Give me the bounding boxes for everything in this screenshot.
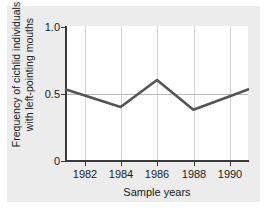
gridline-horizontal-05 bbox=[67, 94, 248, 95]
x-tick-mark-1982 bbox=[85, 162, 86, 166]
x-tick-label-1986: 1986 bbox=[145, 168, 169, 180]
y-tick-mark-0 bbox=[61, 161, 65, 162]
y-tick-label-1: 1.0 bbox=[45, 21, 60, 33]
y-axis-title-line-1: Frequency of cichlid individuals bbox=[10, 0, 23, 150]
y-tick-label-05: 0.5 bbox=[45, 88, 60, 100]
y-tick-mark-1 bbox=[61, 27, 65, 28]
x-tick-label-1988: 1988 bbox=[182, 168, 206, 180]
x-tick-mark-1990 bbox=[230, 162, 231, 166]
x-tick-mark-1984 bbox=[121, 162, 122, 166]
x-tick-mark-1988 bbox=[194, 162, 195, 166]
x-tick-label-1982: 1982 bbox=[73, 168, 97, 180]
y-tick-mark-05 bbox=[61, 94, 65, 95]
x-tick-label-1984: 1984 bbox=[109, 168, 133, 180]
y-axis-title-line-2: with left-pointing mouths bbox=[22, 0, 35, 150]
y-axis-line bbox=[65, 26, 67, 162]
x-tick-label-1990: 1990 bbox=[218, 168, 242, 180]
y-axis-title: Frequency of cichlid individuals with le… bbox=[10, 0, 35, 150]
x-axis-title: Sample years bbox=[66, 186, 248, 198]
x-tick-mark-1986 bbox=[157, 162, 158, 166]
y-tick-label-0: 0 bbox=[54, 155, 60, 167]
chart-figure: 1.0 0.5 0 1982 1984 1986 1988 1990 Sampl… bbox=[0, 0, 267, 209]
